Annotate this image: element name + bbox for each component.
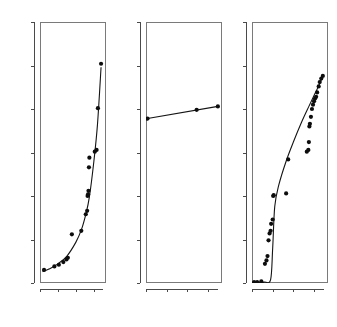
data-point xyxy=(286,157,290,161)
data-point xyxy=(269,229,273,233)
data-point xyxy=(306,148,310,152)
data-point xyxy=(321,74,325,78)
multi-panel-scatter-figure xyxy=(0,0,337,327)
data-point xyxy=(308,122,312,126)
data-point xyxy=(272,193,276,197)
data-point xyxy=(315,90,319,94)
plot-data-layer xyxy=(0,0,337,327)
data-point xyxy=(259,279,263,283)
data-point xyxy=(317,84,321,88)
data-point xyxy=(264,258,268,262)
data-point xyxy=(255,280,259,284)
data-point xyxy=(314,95,318,99)
data-point xyxy=(309,115,313,119)
data-point xyxy=(271,217,275,221)
data-point xyxy=(265,254,269,258)
data-point xyxy=(266,238,270,242)
data-point xyxy=(310,107,314,111)
data-point xyxy=(284,191,288,195)
data-point xyxy=(269,222,273,226)
data-point xyxy=(307,140,311,144)
